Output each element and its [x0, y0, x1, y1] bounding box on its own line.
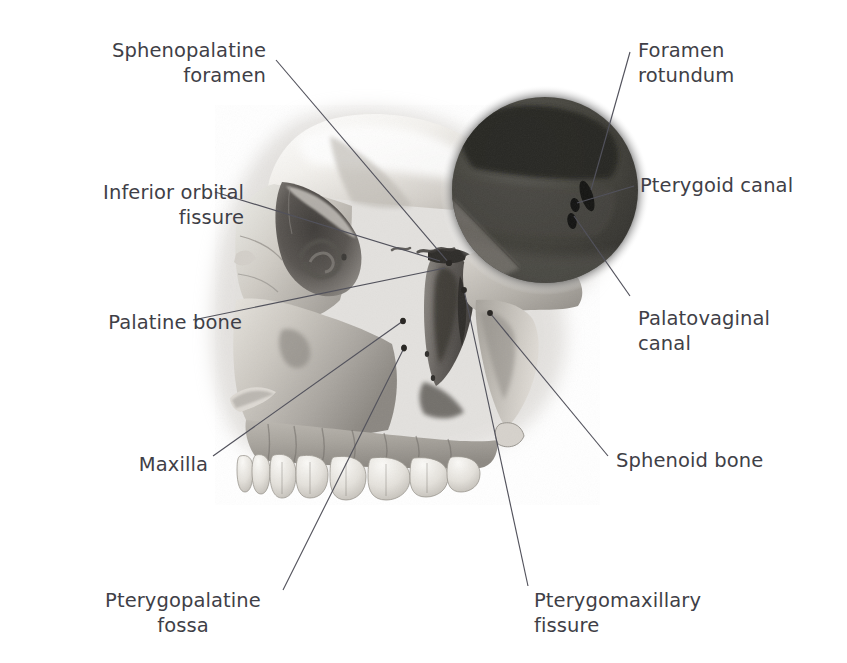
label-pterygomaxillary-fissure: Pterygomaxillaryfissure	[534, 588, 734, 638]
label-pterygoid-canal: Pterygoid canal	[640, 173, 820, 198]
label-inferior-orbital-fissure: Inferior orbitalfissure	[44, 180, 244, 230]
label-pterygomaxillary-fissure-line-1: Pterygomaxillary	[534, 588, 734, 613]
leader-pterygopalatine-fossa-endpoint	[401, 345, 407, 351]
inset-texture	[452, 97, 638, 283]
leader-maxilla-endpoint	[400, 318, 406, 324]
label-sphenopalatine-foramen: Sphenopalatineforamen	[96, 38, 266, 88]
label-palatovaginal-canal-line-2: canal	[638, 331, 818, 356]
label-foramen-rotundum: Foramenrotundum	[638, 38, 818, 88]
label-palatine-bone: Palatine bone	[42, 310, 242, 335]
label-inferior-orbital-fissure-line-1: Inferior orbital	[44, 180, 244, 205]
leader-sphenopalatine-foramen-endpoint	[446, 260, 452, 266]
label-pterygopalatine-fossa: Pterygopalatinefossa	[88, 588, 278, 638]
label-sphenopalatine-foramen-line-1: Sphenopalatine	[96, 38, 266, 63]
label-maxilla-line-1: Maxilla	[60, 452, 208, 477]
label-sphenoid-bone: Sphenoid bone	[616, 448, 806, 473]
label-foramen-rotundum-line-2: rotundum	[638, 63, 818, 88]
label-pterygopalatine-fossa-line-2: fossa	[88, 613, 278, 638]
label-foramen-rotundum-line-1: Foramen	[638, 38, 818, 63]
label-palatine-bone-line-1: Palatine bone	[42, 310, 242, 335]
label-sphenoid-bone-line-1: Sphenoid bone	[616, 448, 806, 473]
magnifier-inset	[440, 85, 650, 295]
label-palatovaginal-canal: Palatovaginalcanal	[638, 306, 818, 356]
label-pterygomaxillary-fissure-line-2: fissure	[534, 613, 734, 638]
label-palatovaginal-canal-line-1: Palatovaginal	[638, 306, 818, 331]
label-sphenopalatine-foramen-line-2: foramen	[96, 63, 266, 88]
anatomy-figure: SphenopalatineforamenForamenrotundumInfe…	[0, 0, 847, 663]
leader-sphenoid-bone-endpoint	[487, 310, 493, 316]
label-pterygoid-canal-line-1: Pterygoid canal	[640, 173, 820, 198]
label-inferior-orbital-fissure-line-2: fissure	[44, 205, 244, 230]
label-maxilla: Maxilla	[60, 452, 208, 477]
leader-pterygomaxillary-fissure-endpoint	[461, 287, 467, 293]
label-pterygopalatine-fossa-line-1: Pterygopalatine	[88, 588, 278, 613]
